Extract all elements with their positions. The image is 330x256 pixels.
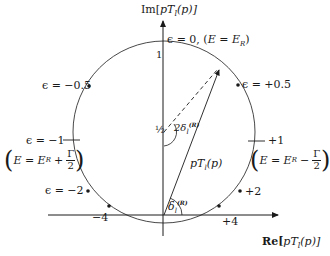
x-label-pre: Re[ xyxy=(262,235,283,248)
x-label-var: pT xyxy=(283,235,297,248)
frac-num: Γ xyxy=(312,149,321,161)
energy-annotation-left: ( E = ER + Γ2 ) xyxy=(4,148,84,172)
frac-num: Γ xyxy=(66,149,75,161)
label-eps-plus05: ϵ = +0.5 xyxy=(242,79,291,90)
paren-open: ( xyxy=(4,148,13,172)
energy-annotation-right: ( E = ER − Γ2 ) xyxy=(250,148,330,172)
vector-label: pTl(p) xyxy=(190,158,222,172)
frac-den: 2 xyxy=(66,161,75,172)
angle-2delta-label: 2δl(R) xyxy=(174,122,199,136)
two-delta-sup: (R) xyxy=(189,121,200,128)
left-energy-sub: R xyxy=(46,157,51,164)
eps0-end: ) xyxy=(245,33,249,46)
y-label-var: pT xyxy=(160,3,174,16)
delta-sub: l xyxy=(175,207,177,215)
frac-den: 2 xyxy=(312,161,321,172)
vector-post: (p) xyxy=(207,157,223,170)
point-eps-plus05 xyxy=(236,83,240,87)
left-energy-lhs: E = E xyxy=(13,155,45,166)
paren-close: ) xyxy=(321,148,330,172)
vector-var: pT xyxy=(190,157,204,170)
y-label-post: (p)] xyxy=(177,3,197,16)
angle-delta-label: δl(R) xyxy=(168,200,188,215)
point-eps-minus4 xyxy=(107,204,111,208)
label-eps-minus1: ϵ = −1 xyxy=(26,135,65,146)
left-energy-op: + xyxy=(54,155,63,166)
label-eps-minus2: ϵ = −2 xyxy=(45,185,84,196)
point-eps-plus4 xyxy=(217,204,221,208)
label-eps-0: ϵ = 0, (E = ER) xyxy=(167,34,250,48)
two-delta-sub: l xyxy=(186,128,188,136)
right-energy-op: − xyxy=(300,155,309,166)
y-label-pre: Im[ xyxy=(141,3,160,16)
label-eps-plus4: +4 xyxy=(222,216,238,227)
right-energy-lhs: E = E xyxy=(259,155,291,166)
label-eps-plus1: +1 xyxy=(268,135,284,146)
label-eps-plus2: +2 xyxy=(245,186,261,197)
right-energy-fraction: Γ2 xyxy=(312,149,321,171)
eps0-eq: E = E xyxy=(208,33,240,46)
x-label-post: (p)] xyxy=(300,235,320,248)
two-delta-pre: 2δ xyxy=(174,122,186,133)
point-eps-plus2 xyxy=(238,189,242,193)
tick-label-half: ½ xyxy=(155,125,165,135)
tick-label-one: 1 xyxy=(156,50,162,60)
right-energy-sub: R xyxy=(292,157,297,164)
label-eps-minus4: −4 xyxy=(92,212,108,223)
left-energy-fraction: Γ2 xyxy=(66,149,75,171)
point-eps-minus2 xyxy=(86,189,90,193)
delta-sup: (R) xyxy=(177,199,188,206)
label-eps-minus05: ϵ = −0.5 xyxy=(42,80,91,91)
paren-close: ) xyxy=(75,148,84,172)
y-axis-label: Im[pTl(p)] xyxy=(141,4,197,18)
paren-open: ( xyxy=(250,148,259,172)
delta-sym: δ xyxy=(168,200,175,213)
x-axis-label: Re[pTl(p)] xyxy=(262,236,320,250)
eps0-main: ϵ = 0, ( xyxy=(167,33,208,46)
